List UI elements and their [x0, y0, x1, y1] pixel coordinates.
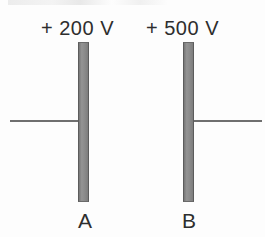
voltage-label-plate-b: + 500 V [146, 17, 219, 39]
plate-letter-b: B [182, 209, 196, 233]
wire-right [192, 120, 262, 122]
wire-left [10, 120, 80, 122]
figure-canvas: + 200 V + 500 V A B [0, 0, 265, 237]
plate-b [183, 42, 194, 202]
plate-a [78, 42, 89, 202]
voltage-label-plate-a: + 200 V [41, 17, 114, 39]
plate-letter-a: A [78, 209, 92, 233]
scan-artifact [8, 0, 208, 5]
